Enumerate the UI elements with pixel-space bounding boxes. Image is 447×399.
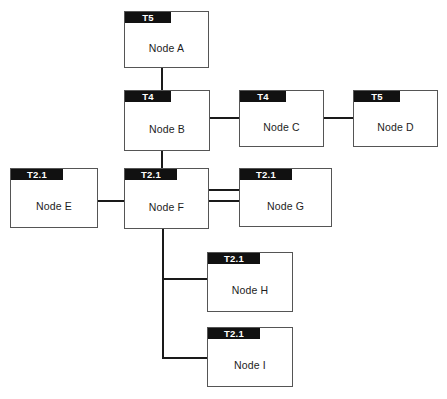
connector-b-to-f (161, 150, 163, 169)
connector-b-to-c (209, 117, 240, 119)
node-g[interactable]: T2.1Node G (239, 168, 332, 227)
node-h[interactable]: T2.1Node H (207, 252, 293, 312)
node-a[interactable]: T5Node A (124, 11, 209, 68)
node-e[interactable]: T2.1Node E (10, 168, 98, 228)
diagram-canvas: T5Node AT4Node BT4Node CT5Node DT2.1Node… (0, 0, 447, 399)
node-e-label: Node E (11, 200, 97, 212)
connector-f-to-g-upper (208, 189, 240, 191)
node-d-label: Node D (354, 121, 437, 133)
connector-trunk-to-i (162, 357, 208, 359)
node-h-tag: T2.1 (208, 253, 260, 264)
node-a-tag: T5 (125, 12, 171, 23)
node-a-label: Node A (125, 42, 208, 54)
node-i-label: Node I (208, 359, 292, 371)
node-b[interactable]: T4Node B (124, 90, 210, 151)
node-b-label: Node B (125, 123, 209, 135)
node-g-label: Node G (240, 200, 331, 212)
node-i-tag: T2.1 (208, 328, 260, 339)
node-f[interactable]: T2.1Node F (124, 168, 209, 229)
node-f-tag: T2.1 (125, 169, 177, 180)
node-i[interactable]: T2.1Node I (207, 327, 293, 387)
connector-c-to-d (323, 117, 354, 119)
node-d[interactable]: T5Node D (353, 90, 438, 147)
node-d-tag: T5 (354, 91, 400, 102)
node-h-label: Node H (208, 284, 292, 296)
node-f-label: Node F (125, 201, 208, 213)
node-c-label: Node C (240, 121, 323, 133)
node-b-tag: T4 (125, 91, 171, 102)
connector-f-to-g-lower (208, 200, 240, 202)
node-c-tag: T4 (240, 91, 286, 102)
node-c[interactable]: T4Node C (239, 90, 324, 147)
connector-a-to-b (161, 68, 163, 90)
node-g-tag: T2.1 (240, 169, 292, 180)
connector-f-trunk (162, 228, 164, 359)
connector-trunk-to-h (162, 278, 208, 280)
connector-e-to-f (97, 200, 125, 202)
node-e-tag: T2.1 (11, 169, 63, 180)
